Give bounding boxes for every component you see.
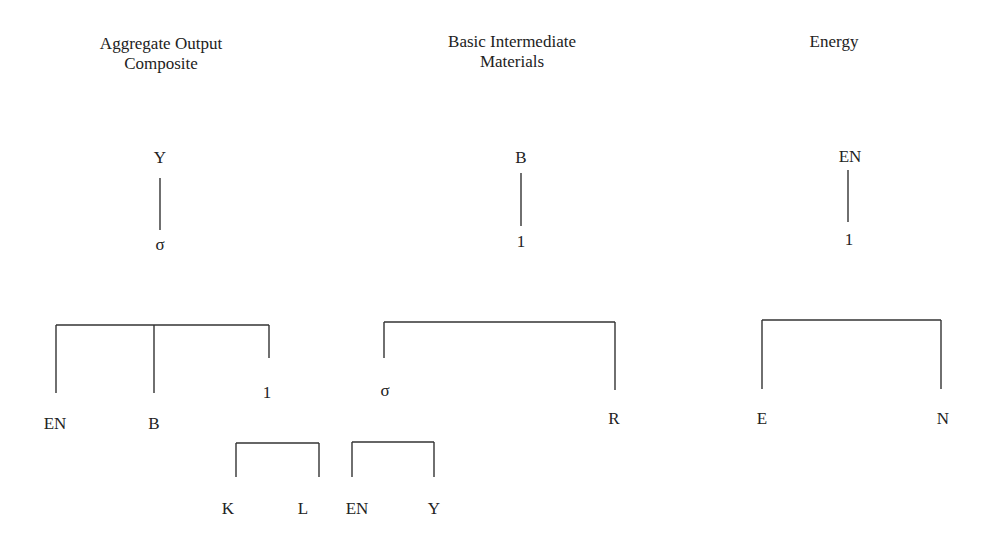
node-root-en: EN xyxy=(839,148,862,166)
node-elasticity-1: 1 xyxy=(845,231,854,249)
node-y: Y xyxy=(428,500,440,518)
node-k: K xyxy=(222,500,234,518)
node-elasticity-sigma: σ xyxy=(155,236,164,254)
node-l: L xyxy=(298,500,308,518)
node-root-y: Y xyxy=(154,149,166,167)
node-elasticity-1: 1 xyxy=(263,384,272,402)
node-elasticity-sigma: σ xyxy=(380,382,389,400)
node-n: N xyxy=(937,410,949,428)
node-b: B xyxy=(148,415,159,433)
node-root-b: B xyxy=(515,149,526,167)
tree-connectors xyxy=(0,0,994,540)
node-e: E xyxy=(757,410,767,428)
node-en: EN xyxy=(44,415,67,433)
node-elasticity-1: 1 xyxy=(517,233,526,251)
node-r: R xyxy=(608,410,619,428)
node-en: EN xyxy=(346,500,369,518)
